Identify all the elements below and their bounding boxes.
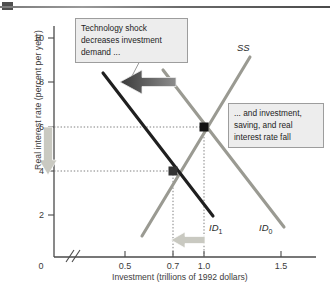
id0-curve — [163, 70, 284, 227]
id1-label-base: ID — [209, 222, 219, 233]
ss-curve-label: SS — [237, 42, 250, 53]
x-tick-15: 1.5 — [266, 261, 296, 271]
id0-label-sub: 0 — [269, 228, 273, 235]
id0-label-base: ID — [259, 222, 269, 233]
result-callout: ... and investment, saving, and real int… — [228, 103, 324, 148]
result-callout-line2: saving, and real — [234, 120, 318, 132]
y-tick-4: 4 — [28, 166, 44, 176]
x-tick-0: 0 — [26, 261, 56, 271]
id0-curve-label: ID0 — [259, 222, 272, 235]
x-tick-07: 0.7 — [158, 261, 188, 271]
y-tick-10: 10 — [28, 33, 44, 43]
shift-callout-line1: Technology shock — [81, 23, 182, 35]
shift-callout: Technology shock decreases investment de… — [75, 18, 188, 63]
x-tick-10: 1.0 — [189, 261, 219, 271]
y-tick-2: 2 — [28, 210, 44, 220]
y-tick-8: 8 — [28, 77, 44, 87]
new-equilibrium-point — [169, 167, 178, 176]
x-tick-05: 0.5 — [110, 261, 140, 271]
y-tick-marks — [48, 38, 54, 215]
result-callout-line3: interest rate fall — [234, 132, 318, 144]
id1-label-sub: 1 — [219, 228, 223, 235]
shift-callout-line2: decreases investment — [81, 35, 182, 47]
x-tick-marks — [125, 251, 281, 257]
x-axis-label: Investment (trillions of 1992 dollars) — [112, 272, 322, 282]
result-callout-line1: ... and investment, — [234, 108, 318, 120]
id1-curve-label: ID1 — [209, 222, 222, 235]
investment-fall-arrow — [171, 232, 205, 248]
axis-break-mark — [66, 250, 80, 262]
shift-callout-line3: demand ... — [81, 47, 182, 59]
y-tick-6: 6 — [28, 122, 44, 132]
initial-equilibrium-point — [200, 123, 209, 132]
